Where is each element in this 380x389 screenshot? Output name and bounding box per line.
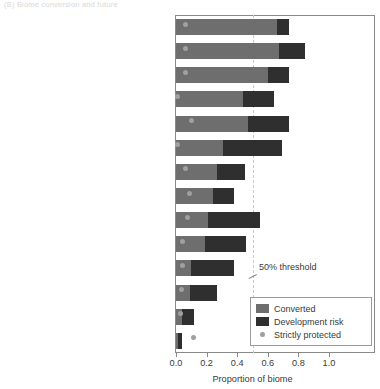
legend-swatch-development-risk xyxy=(256,317,269,326)
bar-segment-converted xyxy=(176,19,277,35)
legend-swatch-converted xyxy=(256,304,269,313)
x-axis-tick xyxy=(268,353,269,357)
bar-segment-development-risk xyxy=(217,164,245,180)
x-axis-tick xyxy=(176,353,177,357)
x-axis-tick xyxy=(298,353,299,357)
legend-label-converted: Converted xyxy=(274,304,316,314)
bar-row xyxy=(176,63,376,87)
x-axis-tick-label: 0.0 xyxy=(170,358,183,368)
bar-row xyxy=(176,15,376,39)
bar-row xyxy=(176,160,376,184)
bar-segment-converted xyxy=(176,116,248,132)
figure-panel: (B) Biome conversion and future Temperat… xyxy=(0,0,380,389)
marker-strictly-protected xyxy=(180,263,185,268)
bar-segment-converted xyxy=(176,140,223,156)
bar-segment-development-risk xyxy=(205,236,246,252)
x-axis-tick-label: 0.4 xyxy=(231,358,244,368)
bar-segment-converted xyxy=(176,212,208,228)
bar-segment-development-risk xyxy=(248,116,289,132)
marker-strictly-protected xyxy=(187,191,192,196)
bar-segment-development-risk xyxy=(178,333,182,349)
bar-segment-development-risk xyxy=(279,43,305,59)
bar-segment-development-risk xyxy=(223,140,281,156)
bar-segment-development-risk xyxy=(268,67,289,83)
x-axis-tick-label: 0.2 xyxy=(200,358,213,368)
bar-segment-development-risk xyxy=(182,309,194,325)
bar-row xyxy=(176,112,376,136)
legend-label-development-risk: Development risk xyxy=(274,317,344,327)
bar-row xyxy=(176,87,376,111)
legend-label-strictly-protected: Strictly protected xyxy=(274,330,341,340)
x-axis-tick-label: 0.8 xyxy=(292,358,305,368)
marker-strictly-protected xyxy=(179,287,184,292)
x-axis-tick-label: 1.0 xyxy=(323,358,336,368)
bar-segment-converted xyxy=(176,188,213,204)
bar-row xyxy=(176,208,376,232)
bar-segment-development-risk xyxy=(191,260,234,276)
bar-segment-converted xyxy=(176,91,243,107)
bar-row xyxy=(176,136,376,160)
bar-segment-development-risk xyxy=(208,212,260,228)
legend-dot-strictly-protected xyxy=(256,332,269,337)
bar-segment-development-risk xyxy=(190,285,218,301)
marker-strictly-protected xyxy=(185,215,190,220)
legend-item-development-risk: Development risk xyxy=(256,315,366,328)
marker-strictly-protected xyxy=(189,118,194,123)
x-axis-tick xyxy=(207,353,208,357)
x-axis-tick xyxy=(237,353,238,357)
legend: Converted Development risk Strictly prot… xyxy=(250,297,372,346)
bar-segment-development-risk xyxy=(277,19,289,35)
x-axis-tick-label: 0.6 xyxy=(261,358,274,368)
x-axis-tick xyxy=(329,353,330,357)
legend-item-converted: Converted xyxy=(256,302,366,315)
bar-row xyxy=(176,39,376,63)
bar-segment-converted xyxy=(176,43,279,59)
threshold-annotation-label: 50% threshold xyxy=(259,262,317,272)
bar-row xyxy=(176,184,376,208)
bar-segment-converted xyxy=(176,164,217,180)
marker-strictly-protected xyxy=(191,335,196,340)
x-axis-title: Proportion of biome xyxy=(176,374,329,384)
bar-segment-converted xyxy=(176,67,268,83)
bar-row xyxy=(176,232,376,256)
bar-segment-development-risk xyxy=(213,188,234,204)
panel-caption: (B) Biome conversion and future xyxy=(4,0,118,9)
legend-item-strictly-protected: Strictly protected xyxy=(256,328,366,341)
bar-segment-development-risk xyxy=(243,91,274,107)
